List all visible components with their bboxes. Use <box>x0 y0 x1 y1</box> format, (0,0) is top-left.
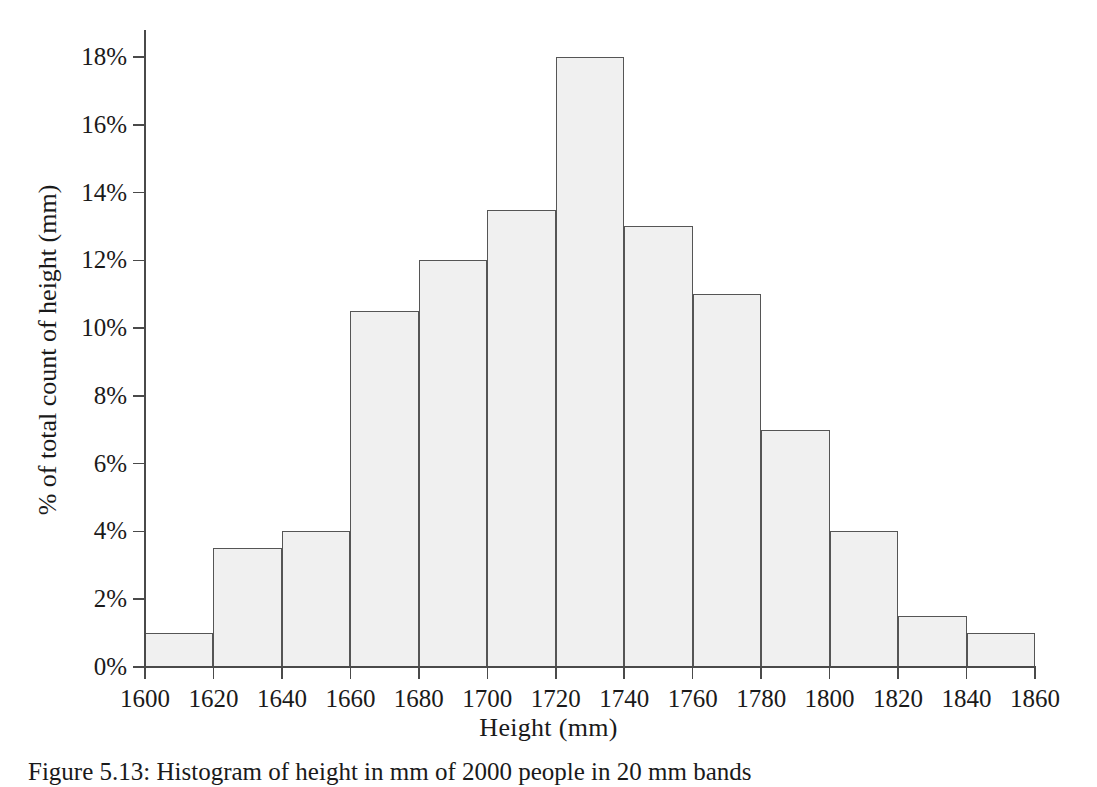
histogram-bar <box>898 616 966 667</box>
y-tick-mark <box>133 531 144 533</box>
histogram-bar <box>282 531 350 667</box>
x-tick-mark <box>1034 667 1036 679</box>
histogram-bar <box>145 633 213 667</box>
x-tick-mark <box>760 667 762 679</box>
y-tick-mark <box>133 192 144 194</box>
x-tick-mark <box>418 667 420 679</box>
y-axis-title: % of total count of height (mm) <box>33 40 63 660</box>
y-tick-mark <box>133 463 144 465</box>
x-tick-mark <box>966 667 968 679</box>
y-tick-mark <box>133 598 144 600</box>
x-tick-mark <box>555 667 557 679</box>
x-tick-mark <box>350 667 352 679</box>
x-axis-title: Height (mm) <box>0 713 1097 743</box>
histogram-bar <box>967 633 1035 667</box>
y-tick-mark <box>133 56 144 58</box>
figure-caption: Figure 5.13: Histogram of height in mm o… <box>28 757 1068 787</box>
y-axis-spine <box>144 30 146 668</box>
y-tick-mark <box>133 327 144 329</box>
x-tick-mark <box>487 667 489 679</box>
x-axis-spine <box>145 666 1036 668</box>
x-tick-mark <box>623 667 625 679</box>
histogram-bar <box>830 531 898 667</box>
histogram-bar <box>487 210 555 668</box>
histogram-bar <box>761 430 829 667</box>
x-tick-mark <box>829 667 831 679</box>
y-tick-mark <box>133 260 144 262</box>
histogram-bar <box>419 260 487 667</box>
x-tick-label: 1860 <box>990 684 1080 714</box>
y-tick-mark <box>133 666 144 668</box>
histogram-bar <box>213 548 281 667</box>
x-tick-mark <box>281 667 283 679</box>
y-tick-mark <box>133 124 144 126</box>
x-tick-mark <box>144 667 146 679</box>
histogram-bar <box>693 294 761 667</box>
histogram-bar <box>350 311 418 667</box>
x-tick-mark <box>213 667 215 679</box>
y-tick-mark <box>133 395 144 397</box>
x-tick-mark <box>692 667 694 679</box>
plot-area <box>145 30 1035 667</box>
histogram-bar <box>556 57 624 667</box>
x-tick-mark <box>897 667 899 679</box>
histogram-bar <box>624 226 692 667</box>
